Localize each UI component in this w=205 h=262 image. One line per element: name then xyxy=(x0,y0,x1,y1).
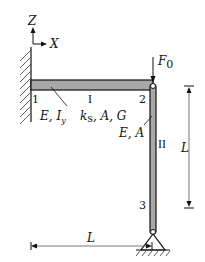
beam-properties-left: E, Iy xyxy=(39,109,66,125)
node-label-2: 2 xyxy=(139,93,146,106)
frame-diagram: Z X F0 1 2 3 I II E, Iy ks, A, G E, A xyxy=(0,0,205,262)
beam-id-label: I xyxy=(88,92,92,106)
load-F0: F0 xyxy=(151,54,174,83)
node-label-1: 1 xyxy=(32,93,39,106)
coordinate-axes: Z X xyxy=(27,14,59,51)
pinned-support xyxy=(136,234,170,256)
hinge-node-2 xyxy=(151,84,156,89)
x-axis-label: X xyxy=(49,37,59,51)
vertical-dimension: L xyxy=(180,86,194,208)
horizontal-dimension: L xyxy=(31,231,152,250)
beam-I xyxy=(31,80,153,90)
horizontal-dimension-label: L xyxy=(86,231,95,245)
fixed-wall-support xyxy=(20,47,31,124)
load-label: F0 xyxy=(157,54,173,71)
column-II xyxy=(150,84,156,234)
column-id-label: II xyxy=(158,137,166,151)
node-label-3: 3 xyxy=(139,199,146,212)
column-properties: E, A xyxy=(118,126,144,140)
x-arrow-icon xyxy=(41,42,47,47)
beam-properties-right: ks, A, G xyxy=(80,109,127,125)
vertical-dimension-label: L xyxy=(180,141,189,155)
z-axis-label: Z xyxy=(27,14,37,28)
